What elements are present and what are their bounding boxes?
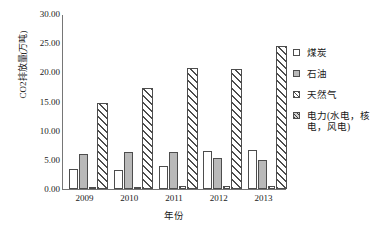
y-tick-label: 5.00 <box>14 156 60 165</box>
bar-coal <box>69 169 78 189</box>
bar-coal <box>114 170 123 189</box>
bar-group <box>108 15 153 189</box>
y-tick-label: 30.00 <box>14 10 60 19</box>
legend-item-natural-gas[interactable]: 天然气 <box>293 90 381 101</box>
legend-item-coal[interactable]: 煤炭 <box>293 48 381 59</box>
legend-swatch-icon <box>293 49 300 56</box>
legend-item-label: 石油 <box>307 69 327 79</box>
bar-oil <box>79 154 88 189</box>
bar-group <box>197 15 242 189</box>
bar-natural-gas <box>89 187 96 189</box>
bar-group <box>242 15 287 189</box>
x-axis-title: 年份 <box>62 208 286 222</box>
bar-group <box>153 15 198 189</box>
legend-item-label: 煤炭 <box>307 48 327 58</box>
bar-electricity <box>142 88 153 189</box>
legend-swatch-icon <box>293 112 300 119</box>
y-tick-label: 25.00 <box>14 39 60 48</box>
bar-natural-gas <box>179 186 186 189</box>
bar-electricity <box>231 69 242 189</box>
x-tick-label: 2013 <box>234 193 294 203</box>
bar-oil <box>124 152 133 189</box>
y-tick-label: 20.00 <box>14 68 60 77</box>
bar-oil <box>169 152 178 189</box>
legend-swatch-icon <box>293 70 300 77</box>
bar-natural-gas <box>223 186 230 189</box>
chart-legend: 煤炭石油天然气电力(水电，核 电，风电) <box>293 48 381 143</box>
bar-coal <box>203 151 212 190</box>
bar-group <box>63 15 108 189</box>
bar-natural-gas <box>268 186 275 189</box>
y-tick-label: 10.00 <box>14 127 60 136</box>
bar-oil <box>258 160 267 189</box>
bar-electricity <box>276 46 287 189</box>
bars-container <box>63 15 286 189</box>
co2-emissions-bar-chart: CO2排放量(万吨) 0.005.0010.0015.0020.0025.003… <box>0 0 384 236</box>
legend-swatch-icon <box>293 91 300 98</box>
y-tick-label: 0.00 <box>14 185 60 194</box>
y-axis-tick-labels: 0.005.0010.0015.0020.0025.0030.00 <box>8 0 60 236</box>
bar-natural-gas <box>134 187 141 189</box>
plot-area <box>62 15 286 190</box>
bar-coal <box>248 150 257 189</box>
bar-coal <box>159 166 168 189</box>
bar-oil <box>213 158 222 190</box>
legend-item-label: 天然气 <box>307 90 337 100</box>
y-tick-label: 15.00 <box>14 98 60 107</box>
bar-electricity <box>97 103 108 189</box>
legend-item-electricity[interactable]: 电力(水电，核 电，风电) <box>293 111 381 133</box>
legend-item-label: 电力(水电，核 电，风电) <box>307 111 370 132</box>
bar-electricity <box>187 68 198 189</box>
legend-item-oil[interactable]: 石油 <box>293 69 381 80</box>
